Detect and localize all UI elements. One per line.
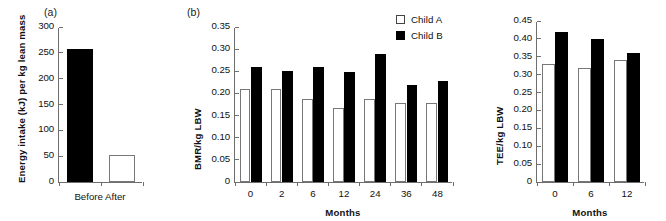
bar-child-a-36 xyxy=(395,103,406,182)
y-tick-label: 250 xyxy=(38,46,54,57)
bar-child-b-6 xyxy=(591,39,603,182)
y-tick-mark xyxy=(235,137,239,138)
legend: Child AChild B xyxy=(396,12,443,44)
y-tick-mark xyxy=(235,49,239,50)
bar-child-a-6 xyxy=(578,68,590,182)
y-tick-label: 0 xyxy=(49,175,54,186)
bar-after xyxy=(109,155,135,182)
bar-child-b-0 xyxy=(251,67,262,182)
figure-root: (a) Energy intake (kJ) per kg lean mass … xyxy=(0,0,666,221)
y-tick-label: 0.35 xyxy=(514,50,532,61)
x-tick-mark xyxy=(266,182,267,186)
x-tick-label: 36 xyxy=(401,188,412,199)
y-tick-mark xyxy=(59,104,63,105)
legend-label: Child B xyxy=(411,30,443,41)
y-tick-label: 0.05 xyxy=(212,153,230,164)
panel-a-tag: (a) xyxy=(44,6,57,18)
panel-c-plot-area: 00.050.100.150.200.250.300.350.400.45061… xyxy=(536,22,644,183)
y-tick-mark xyxy=(235,71,239,72)
y-tick-mark xyxy=(59,52,63,53)
panel-a: (a) Energy intake (kJ) per kg lean mass … xyxy=(0,0,178,221)
x-tick-mark xyxy=(143,182,144,186)
panel-c-x-axis-title: Months xyxy=(536,207,644,218)
y-tick-mark xyxy=(537,110,541,111)
legend-swatch-open-icon xyxy=(396,15,405,24)
y-tick-mark xyxy=(537,74,541,75)
y-tick-label: 200 xyxy=(38,72,54,83)
legend-swatch-filled-icon xyxy=(396,31,405,40)
bar-child-b-2 xyxy=(282,71,293,182)
x-tick-label: 2 xyxy=(279,188,284,199)
panel-a-plot-area: 050100150200250300 xyxy=(58,28,142,183)
bar-child-a-12 xyxy=(333,108,344,182)
y-tick-label: 0.20 xyxy=(514,103,532,114)
y-tick-label: 0 xyxy=(225,175,230,186)
x-tick-mark xyxy=(59,182,60,186)
y-tick-label: 0.10 xyxy=(514,139,532,150)
bar-child-a-48 xyxy=(426,103,437,182)
y-tick-mark xyxy=(235,27,239,28)
y-tick-label: 0.35 xyxy=(212,20,230,31)
bar-child-b-0 xyxy=(555,32,567,182)
x-tick-mark xyxy=(645,182,646,186)
y-tick-label: 0 xyxy=(527,175,532,186)
y-tick-label: 0.30 xyxy=(212,42,230,53)
y-tick-label: 150 xyxy=(38,98,54,109)
x-tick-mark xyxy=(235,182,236,186)
y-tick-mark xyxy=(59,156,63,157)
panel-b-x-axis-title: Months xyxy=(234,207,452,218)
x-tick-mark xyxy=(297,182,298,186)
panel-b: (b) BMR/kg LBW 00.050.100.150.200.250.30… xyxy=(178,0,480,221)
bar-child-b-6 xyxy=(313,67,324,182)
y-tick-label: 0.40 xyxy=(514,32,532,43)
panel-c: TEE/kg LBW 00.050.100.150.200.250.300.35… xyxy=(480,0,666,221)
panel-c-y-axis-title: TEE/kg LBW xyxy=(494,106,505,165)
y-tick-label: 0.45 xyxy=(514,14,532,25)
y-tick-mark xyxy=(537,56,541,57)
legend-item-child-b: Child B xyxy=(396,28,443,42)
y-tick-mark xyxy=(537,146,541,147)
y-tick-mark xyxy=(537,21,541,22)
y-tick-mark xyxy=(537,92,541,93)
bar-child-a-24 xyxy=(364,99,375,182)
y-tick-label: 300 xyxy=(38,20,54,31)
y-tick-label: 50 xyxy=(43,149,54,160)
bar-child-a-2 xyxy=(271,89,282,182)
x-tick-label: 12 xyxy=(339,188,350,199)
legend-item-child-a: Child A xyxy=(396,12,443,26)
x-tick-label: 0 xyxy=(248,188,253,199)
y-tick-mark xyxy=(537,164,541,165)
x-tick-mark xyxy=(573,182,574,186)
x-tick-mark xyxy=(537,182,538,186)
y-tick-mark xyxy=(537,128,541,129)
x-tick-mark xyxy=(421,182,422,186)
x-tick-mark xyxy=(609,182,610,186)
x-tick-mark xyxy=(390,182,391,186)
bar-before xyxy=(67,49,93,182)
x-tick-mark xyxy=(101,182,102,186)
y-tick-mark xyxy=(235,159,239,160)
legend-label: Child A xyxy=(411,14,442,25)
x-tick-label: 12 xyxy=(622,188,633,199)
y-tick-label: 0.10 xyxy=(212,131,230,142)
y-tick-mark xyxy=(59,27,63,28)
panel-b-y-axis-title: BMR/kg LBW xyxy=(192,108,203,170)
y-tick-label: 100 xyxy=(38,123,54,134)
x-tick-mark xyxy=(359,182,360,186)
y-tick-label: 0.25 xyxy=(212,64,230,75)
x-tick-label: 0 xyxy=(552,188,557,199)
x-tick-label: 6 xyxy=(588,188,593,199)
bar-child-a-12 xyxy=(614,60,626,182)
bar-child-b-36 xyxy=(407,85,418,182)
y-tick-label: 0.30 xyxy=(514,68,532,79)
bar-child-b-12 xyxy=(344,72,355,182)
bar-child-b-24 xyxy=(375,54,386,182)
y-tick-mark xyxy=(235,115,239,116)
x-tick-mark xyxy=(453,182,454,186)
bar-child-b-12 xyxy=(627,53,639,182)
y-tick-mark xyxy=(59,78,63,79)
y-tick-label: 0.25 xyxy=(514,86,532,97)
x-tick-label: 6 xyxy=(310,188,315,199)
y-tick-mark xyxy=(235,93,239,94)
panel-a-y-axis-title: Energy intake (kJ) per kg lean mass xyxy=(16,15,27,183)
